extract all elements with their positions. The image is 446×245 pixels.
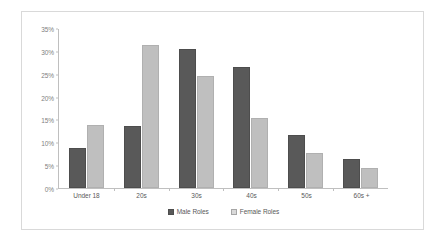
y-axis-tick-label: 25% xyxy=(24,71,54,78)
legend-swatch-icon xyxy=(168,209,174,215)
y-axis-tick-mark xyxy=(56,166,58,167)
bar[interactable] xyxy=(361,168,378,188)
bar[interactable] xyxy=(306,153,323,188)
chart-legend: Male RolesFemale Roles xyxy=(22,208,425,215)
y-axis-tick-mark xyxy=(56,29,58,30)
bar-group xyxy=(59,29,114,188)
y-axis-tick-label: 30% xyxy=(24,48,54,55)
bar[interactable] xyxy=(343,159,360,188)
y-axis-tick-mark xyxy=(56,120,58,121)
y-axis-tick-mark xyxy=(56,189,58,190)
bar[interactable] xyxy=(142,45,159,188)
y-axis-tick-mark xyxy=(56,97,58,98)
x-axis-tick-label: 20s xyxy=(114,192,169,199)
y-axis-tick-label: 10% xyxy=(24,140,54,147)
y-axis-tick-label: 15% xyxy=(24,117,54,124)
y-axis-tick-mark xyxy=(56,74,58,75)
bar-group xyxy=(333,29,388,188)
y-axis-tick-label: 20% xyxy=(24,94,54,101)
y-axis-tick-mark xyxy=(56,143,58,144)
legend-item[interactable]: Male Roles xyxy=(168,208,209,215)
bar[interactable] xyxy=(233,67,250,188)
x-axis-labels: Under 1820s30s40s50s60s + xyxy=(59,192,389,199)
plot-area: 0%5%10%15%20%25%30%35% xyxy=(58,29,388,189)
bar-group xyxy=(114,29,169,188)
bar-group xyxy=(169,29,224,188)
x-axis-tick-label: 50s xyxy=(279,192,334,199)
bar[interactable] xyxy=(87,125,104,188)
x-axis-tick-label: Under 18 xyxy=(59,192,114,199)
chart-container: 0%5%10%15%20%25%30%35% Under 1820s30s40s… xyxy=(21,11,424,230)
legend-label: Female Roles xyxy=(240,208,280,215)
y-axis-tick-mark xyxy=(56,51,58,52)
bar[interactable] xyxy=(179,49,196,188)
legend-swatch-icon xyxy=(231,209,237,215)
y-axis-tick-label: 5% xyxy=(24,163,54,170)
legend-label: Male Roles xyxy=(177,208,209,215)
bar-group xyxy=(223,29,278,188)
bar[interactable] xyxy=(69,148,86,188)
bar[interactable] xyxy=(251,118,268,188)
y-axis-tick-label: 0% xyxy=(24,186,54,193)
bar-group xyxy=(278,29,333,188)
y-axis-tick-label: 35% xyxy=(24,26,54,33)
x-axis-tick-label: 60s + xyxy=(334,192,389,199)
legend-item[interactable]: Female Roles xyxy=(231,208,280,215)
bar[interactable] xyxy=(197,76,214,188)
x-axis-tick-label: 30s xyxy=(169,192,224,199)
x-axis-tick-label: 40s xyxy=(224,192,279,199)
bar[interactable] xyxy=(288,135,305,188)
bar[interactable] xyxy=(124,126,141,188)
bar-groups xyxy=(59,29,388,188)
